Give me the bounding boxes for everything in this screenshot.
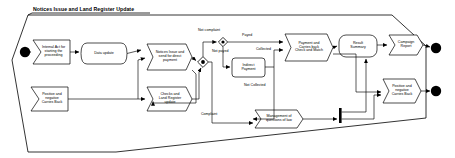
edge-decision-to-complaint-decision (203, 42, 217, 57)
signal-payment-check-match (285, 34, 333, 61)
activity-diagram-canvas: Notices Issue and Land Register Update I… (0, 0, 455, 158)
edge-data-update-to-notices (127, 50, 141, 54)
end-node-top (431, 43, 441, 53)
edge-payment-check-to-result (333, 46, 337, 48)
signal-notices-issue (147, 44, 192, 70)
signal-checks-land-register (147, 87, 192, 111)
start-node-top (20, 47, 30, 57)
activity-data-update (81, 43, 127, 64)
edge-checks-to-decision (192, 68, 201, 99)
edge-notices-to-decision (192, 57, 196, 61)
diagram-frame (12, 13, 426, 152)
diagram-vector-layer (0, 0, 455, 158)
signal-internal-act (33, 40, 70, 64)
decision-main-center (201, 60, 205, 64)
signal-positive-negative-right (383, 79, 421, 103)
signal-positive-negative-left (31, 87, 68, 111)
edge-join-to-result (342, 59, 366, 112)
edge-join-to-positive-negative (342, 95, 381, 119)
edge-payment-check-to-positive-negative (333, 54, 381, 92)
join-bar (339, 108, 342, 123)
end-node-bottom (431, 86, 441, 96)
decision-complaint-center (221, 40, 224, 43)
activity-shapes (81, 35, 377, 77)
edge-not-payed-to-indirect (223, 47, 230, 67)
signal-campaign-report (389, 35, 423, 55)
edge-collected-to-payment-check (265, 50, 283, 67)
edge-campaign-report-to-end (423, 45, 430, 47)
activity-indirect-payment (232, 58, 265, 77)
